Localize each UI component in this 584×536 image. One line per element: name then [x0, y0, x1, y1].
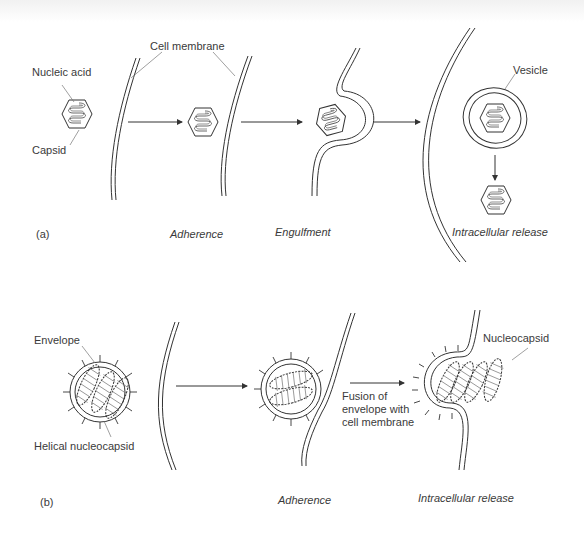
stage-a-intracellular-release: Intracellular release: [452, 226, 548, 239]
label-helical-nucleocapsid: Helical nucleocapsid: [34, 440, 134, 453]
label-capsid: Capsid: [32, 144, 66, 157]
free-virus-hexagon: [62, 100, 92, 128]
stage-b-intracellular-release: Intracellular release: [418, 492, 514, 505]
label-envelope: Envelope: [34, 334, 80, 347]
enveloped-virus-adhering: [254, 352, 323, 426]
label-vesicle: Vesicle: [513, 64, 548, 77]
label-nucleocapsid: Nucleocapsid: [483, 332, 549, 345]
label-cell-membrane: Cell membrane: [150, 40, 225, 53]
stage-a-adherence: Adherence: [170, 228, 223, 241]
label-nucleic-acid: Nucleic acid: [32, 66, 91, 79]
stage-a-engulfment: Engulfment: [275, 226, 331, 239]
enveloped-virus-free: [63, 355, 137, 429]
panel-a-tag: (a): [36, 228, 49, 241]
panel-b-tag: (b): [40, 496, 53, 509]
stage-b-adherence: Adherence: [278, 494, 331, 507]
label-fusion: Fusion of envelope with cell membrane: [342, 390, 414, 429]
virus-entry-diagram: [0, 0, 584, 536]
